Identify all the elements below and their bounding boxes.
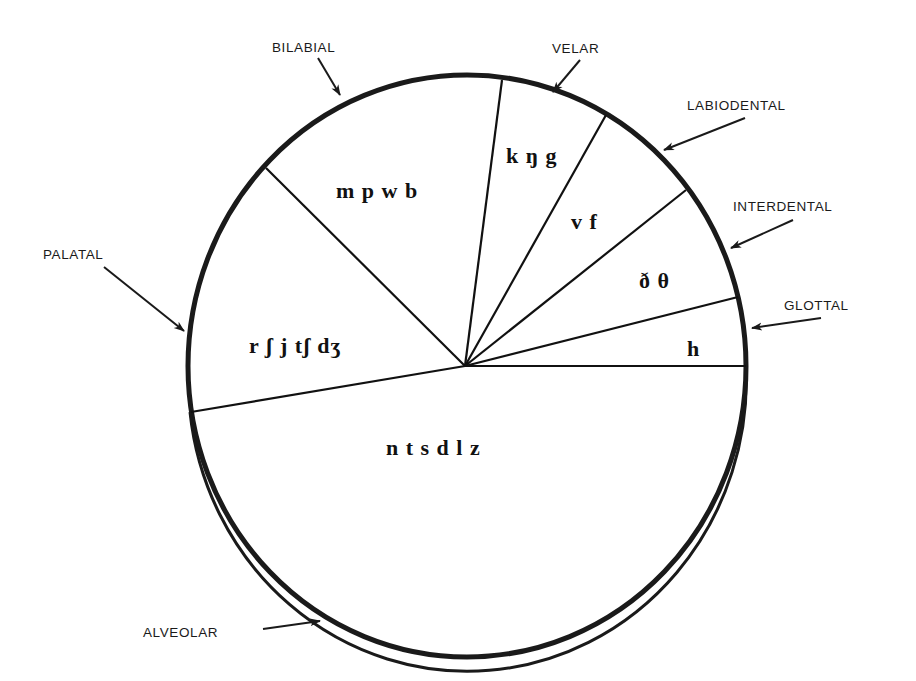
arrow-icon-bilabial (318, 58, 340, 95)
label-bilabial: BILABIAL (272, 40, 335, 55)
arrow-icon-palatal (104, 267, 184, 331)
phones-interdental: ð θ (639, 268, 670, 293)
label-glottal: GLOTTAL (784, 298, 849, 313)
phones-bilabial: m p w b (336, 178, 418, 203)
phones-labiodental: v f (571, 209, 598, 234)
phones-glottal: h (687, 336, 700, 361)
label-velar: VELAR (552, 41, 599, 56)
arrow-icon-velar (553, 60, 580, 92)
phones-alveolar: n t s d l z (386, 435, 481, 460)
arrow-icon-alveolar (263, 621, 320, 629)
label-alveolar: ALVEOLAR (143, 625, 218, 640)
label-palatal: PALATAL (43, 247, 103, 262)
phones-palatal: r ʃ j tʃ dʒ (249, 333, 342, 358)
phones-velar: k ŋ g (506, 143, 557, 168)
arrow-icon-interdental (731, 220, 793, 248)
label-interdental: INTERDENTAL (733, 199, 832, 214)
arrow-icon-glottal (752, 318, 821, 328)
place-of-articulation-diagram: m p w b k ŋ g v f ð θ h n t s d l z r ʃ … (0, 0, 916, 681)
label-labiodental: LABIODENTAL (687, 98, 786, 113)
arrow-icon-labiodental (664, 118, 745, 150)
